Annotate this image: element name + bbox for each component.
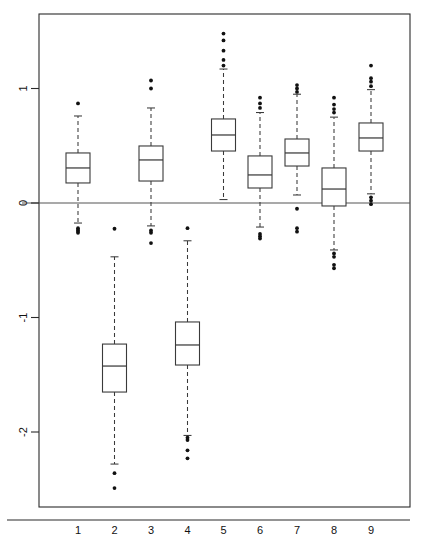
outlier-point (295, 207, 299, 211)
boxplot-group-2 (103, 227, 127, 490)
plot-frame-rect (39, 14, 410, 507)
x-axis: 123456789 (7, 520, 410, 536)
boxplot-group-9 (359, 64, 383, 206)
x-tick-label-2: 2 (111, 524, 117, 536)
box-rect (359, 123, 383, 151)
outlier-point (186, 456, 190, 460)
outlier-point (332, 266, 336, 270)
x-tick-label-9: 9 (368, 524, 374, 536)
x-tick-label-6: 6 (257, 524, 263, 536)
x-tick-label-5: 5 (220, 524, 226, 536)
y-tick-label: 0 (17, 200, 29, 206)
outlier-point (258, 101, 262, 105)
outlier-point (332, 111, 336, 115)
box-rect (322, 168, 346, 206)
outlier-point (186, 226, 190, 230)
x-tick-label-8: 8 (331, 524, 337, 536)
box-series (66, 32, 383, 490)
outlier-point (76, 231, 80, 235)
box-rect (139, 146, 163, 181)
y-tick-label: 1 (17, 85, 29, 91)
boxplot-group-8 (322, 96, 346, 270)
outlier-point (295, 226, 299, 230)
boxplot-group-7 (285, 83, 309, 233)
outlier-point (149, 79, 153, 83)
boxplot-group-4 (176, 226, 200, 460)
outlier-point (295, 90, 299, 94)
outlier-point (186, 438, 190, 442)
outlier-point (149, 241, 153, 245)
outlier-point (222, 49, 226, 53)
outlier-point (113, 471, 117, 475)
outlier-point (295, 83, 299, 87)
outlier-point (332, 263, 336, 267)
boxplot-canvas: 10-1-2 123456789 (0, 0, 422, 544)
boxplot-group-5 (212, 32, 236, 200)
outlier-point (149, 231, 153, 235)
y-tick-label: -1 (17, 313, 29, 323)
outlier-point (222, 39, 226, 43)
outlier-point (258, 237, 262, 241)
outlier-point (369, 84, 373, 88)
outlier-point (222, 32, 226, 36)
outlier-point (332, 107, 336, 111)
outlier-point (149, 87, 153, 91)
y-tick-label: -2 (17, 427, 29, 437)
outlier-point (76, 101, 80, 105)
outlier-point (258, 96, 262, 100)
outlier-point (369, 195, 373, 199)
outlier-point (258, 106, 262, 110)
outlier-point (332, 103, 336, 107)
plot-frame (39, 14, 410, 507)
box-rect (248, 156, 272, 188)
x-tick-label-3: 3 (148, 524, 154, 536)
outlier-point (332, 96, 336, 100)
outlier-point (369, 64, 373, 68)
box-rect (103, 344, 127, 392)
outlier-point (113, 486, 117, 490)
boxplot-group-1 (66, 101, 90, 234)
outlier-point (332, 251, 336, 255)
x-tick-label-7: 7 (294, 524, 300, 536)
x-tick-label-1: 1 (75, 524, 81, 536)
box-rect (176, 322, 200, 365)
outlier-point (369, 76, 373, 80)
x-tick-label-4: 4 (184, 524, 190, 536)
outlier-point (295, 230, 299, 234)
boxplot-group-3 (139, 79, 163, 245)
outlier-point (369, 199, 373, 203)
boxplot-group-6 (248, 96, 272, 241)
outlier-point (186, 448, 190, 452)
outlier-point (113, 227, 117, 231)
outlier-point (222, 64, 226, 68)
outlier-point (332, 255, 336, 259)
outlier-point (295, 87, 299, 91)
y-axis-ticks: 10-1-2 (17, 85, 39, 436)
outlier-point (369, 80, 373, 84)
boxplot-figure: 10-1-2 123456789 (0, 0, 422, 544)
outlier-point (222, 58, 226, 62)
outlier-point (369, 202, 373, 206)
